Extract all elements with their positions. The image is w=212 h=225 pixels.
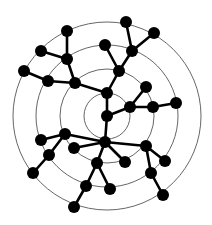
- tree-node: [157, 189, 169, 201]
- tree-node: [101, 87, 113, 99]
- tree-node: [113, 65, 125, 77]
- tree-node: [170, 97, 182, 109]
- tree-node: [159, 155, 171, 167]
- tree-node: [18, 65, 30, 77]
- tree-node: [147, 101, 159, 113]
- root-node: [101, 110, 113, 122]
- edge: [105, 142, 146, 146]
- tree-node: [99, 39, 111, 51]
- radial-tree-diagram: [0, 0, 212, 225]
- tree-node: [126, 45, 138, 57]
- tree-node: [99, 136, 111, 148]
- tree-node: [140, 140, 152, 152]
- tree-node: [61, 53, 73, 65]
- tree-node: [35, 45, 47, 57]
- tree-node: [68, 142, 80, 154]
- tree-node: [61, 25, 73, 37]
- tree-node: [27, 167, 39, 179]
- tree-node: [43, 149, 55, 161]
- tree-node: [120, 16, 132, 28]
- tree-node: [124, 101, 136, 113]
- tree-node: [59, 128, 71, 140]
- tree-node: [91, 157, 103, 169]
- tree-node: [42, 75, 54, 87]
- tree-node: [140, 81, 152, 93]
- tree-node: [148, 27, 160, 39]
- tree-node: [69, 77, 81, 89]
- tree-node: [119, 156, 131, 168]
- tree-node: [68, 201, 80, 213]
- tree-node: [80, 180, 92, 192]
- tree-node: [145, 167, 157, 179]
- tree-node: [35, 134, 47, 146]
- tree-node: [104, 183, 116, 195]
